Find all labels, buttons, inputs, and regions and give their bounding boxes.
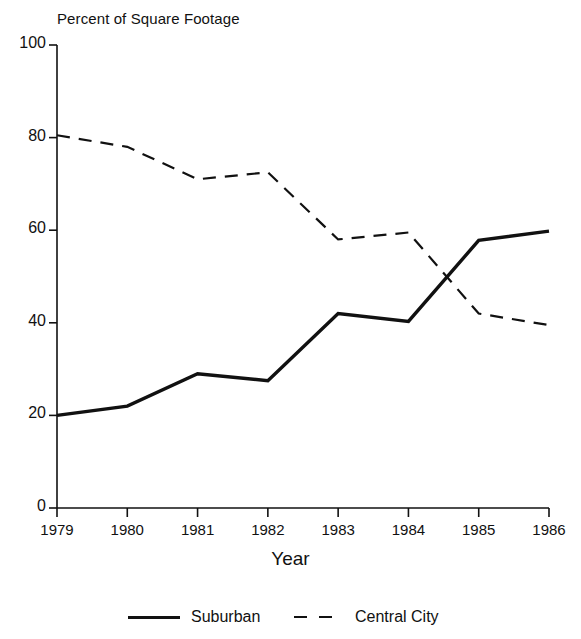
y-tick-label: 60 bbox=[0, 219, 46, 237]
y-tick-label: 40 bbox=[0, 312, 46, 330]
legend-swatch-solid-icon bbox=[128, 610, 180, 624]
legend-label-suburban: Suburban bbox=[191, 608, 260, 626]
plot-area bbox=[0, 0, 581, 639]
legend-item-suburban: Suburban bbox=[128, 604, 260, 630]
chart-figure: Percent of Square Footage 020406080100 1… bbox=[0, 0, 581, 639]
x-tick-label: 1984 bbox=[392, 521, 425, 538]
x-tick-label: 1979 bbox=[40, 521, 73, 538]
x-tick-label: 1981 bbox=[181, 521, 214, 538]
series-line-central-city bbox=[57, 135, 549, 325]
y-tick-label: 20 bbox=[0, 404, 46, 422]
x-tick-label: 1985 bbox=[462, 521, 495, 538]
chart-legend: Suburban Central City bbox=[0, 604, 581, 630]
x-axis-label: Year bbox=[0, 548, 581, 570]
x-tick-label: 1986 bbox=[532, 521, 565, 538]
y-tick-label: 100 bbox=[0, 34, 46, 52]
x-tick-label: 1982 bbox=[251, 521, 284, 538]
x-tick-label: 1980 bbox=[111, 521, 144, 538]
legend-label-central-city: Central City bbox=[355, 608, 439, 626]
x-tick-label: 1983 bbox=[321, 521, 354, 538]
legend-item-central-city: Central City bbox=[292, 604, 439, 630]
chart-title: Percent of Square Footage bbox=[57, 10, 240, 27]
legend-swatch-dashed-icon bbox=[292, 610, 344, 624]
series-line-suburban bbox=[57, 231, 549, 415]
y-tick-label: 0 bbox=[0, 497, 46, 515]
y-tick-label: 80 bbox=[0, 127, 46, 145]
